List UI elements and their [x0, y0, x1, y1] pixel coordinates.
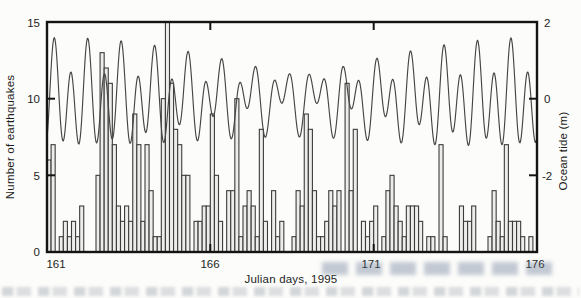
- earthquake-bar: [390, 175, 394, 252]
- earthquake-bar: [76, 237, 80, 252]
- earthquake-bar: [366, 237, 370, 252]
- earthquake-bar: [464, 221, 468, 252]
- earthquake-bar: [427, 237, 431, 252]
- earthquake-bar: [202, 206, 206, 252]
- earthquake-bar: [72, 221, 76, 252]
- earthquake-bar: [394, 206, 398, 252]
- earthquake-bar: [398, 221, 402, 252]
- earthquake-bar: [317, 237, 321, 252]
- earthquake-bar: [492, 191, 496, 252]
- earthquake-bar: [300, 206, 304, 252]
- x-axis-title: Julian days, 1995: [245, 273, 338, 285]
- earthquake-bar: [296, 191, 300, 252]
- earthquake-bar: [272, 191, 276, 252]
- earthquake-bar: [210, 114, 214, 252]
- earthquake-bar: [345, 83, 349, 252]
- earthquake-bar: [165, 22, 169, 252]
- earthquake-bar: [198, 221, 202, 252]
- earthquake-bar: [59, 237, 63, 252]
- earthquake-bars-layer: [47, 22, 533, 252]
- earthquake-bar: [80, 206, 84, 252]
- earthquake-bar: [174, 129, 178, 252]
- ocean-tide-line: [47, 38, 537, 146]
- earthquake-bar: [439, 145, 443, 252]
- earthquake-bar: [182, 175, 186, 252]
- earthquake-bar: [468, 221, 472, 252]
- earthquake-bar: [308, 129, 312, 252]
- earthquake-bar: [353, 129, 357, 252]
- right-tick-label-0: 0: [544, 93, 550, 105]
- x-tick-label-166: 166: [200, 258, 219, 270]
- earthquake-bar: [63, 221, 67, 252]
- earthquake-bar: [304, 114, 308, 252]
- earthquake-bar: [349, 191, 353, 252]
- right-tick-label-neg2: -2: [542, 170, 552, 182]
- earthquake-bar: [361, 221, 365, 252]
- earthquake-bar: [500, 237, 504, 252]
- right-tick-label-2: 2: [544, 17, 550, 29]
- earthquake-bar: [263, 221, 267, 252]
- earthquake-bar: [325, 221, 329, 252]
- earthquake-bar: [133, 114, 137, 252]
- earthquake-bar: [141, 221, 145, 252]
- earthquake-bar: [170, 83, 174, 252]
- earthquake-bar: [214, 175, 218, 252]
- earthquake-bar: [255, 237, 259, 252]
- earthquake-bar: [329, 191, 333, 252]
- earthquake-bar: [194, 221, 198, 252]
- earthquake-bar: [337, 191, 341, 252]
- earthquake-bar: [513, 221, 517, 252]
- earthquake-bar: [51, 145, 55, 252]
- x-tick-label-161: 161: [46, 258, 65, 270]
- earthquake-bar: [251, 206, 255, 252]
- earthquake-bar: [67, 237, 71, 252]
- earthquake-bar: [521, 237, 525, 252]
- earthquake-bar: [459, 206, 463, 252]
- earthquake-bar: [96, 175, 100, 252]
- earthquake-bar: [415, 206, 419, 252]
- earthquake-bar: [517, 221, 521, 252]
- earthquake-bar: [121, 221, 125, 252]
- earthquake-bar: [116, 206, 120, 252]
- earthquake-bar: [157, 237, 161, 252]
- left-axis-title: Number of earthquakes: [4, 75, 16, 199]
- earthquake-bar: [227, 191, 231, 252]
- earthquake-bar: [247, 191, 251, 252]
- earthquake-bar: [386, 191, 390, 252]
- earthquake-tide-chart: 15 10 5 0 2 0 -2 161 166 171 176 Julian …: [0, 0, 581, 298]
- left-tick-label-15: 15: [27, 17, 40, 29]
- earthquake-bar: [504, 145, 508, 252]
- earthquake-bar: [410, 206, 414, 252]
- earthquake-bar: [231, 191, 235, 252]
- earthquake-bar: [243, 206, 247, 252]
- earthquake-bar: [312, 191, 316, 252]
- earthquake-bar: [235, 99, 239, 252]
- earthquake-bar: [125, 206, 129, 252]
- left-tick-label-0: 0: [34, 246, 40, 258]
- earthquake-bar: [321, 237, 325, 252]
- earthquake-bar: [333, 206, 337, 252]
- earthquake-bar: [186, 175, 190, 252]
- left-tick-label-5: 5: [34, 170, 40, 182]
- earthquake-bar: [419, 221, 423, 252]
- earthquake-bar: [145, 145, 149, 252]
- earthquake-bar: [239, 237, 243, 252]
- earthquake-bar: [153, 237, 157, 252]
- earthquake-bar: [488, 237, 492, 252]
- earthquake-bar: [137, 145, 141, 252]
- x-tick-label-176: 176: [525, 258, 544, 270]
- earthquake-bar: [529, 237, 533, 252]
- earthquake-bar: [472, 206, 476, 252]
- earthquake-bar: [149, 191, 153, 252]
- earthquake-bar: [382, 237, 386, 252]
- scanned-figure-page: 15 10 5 0 2 0 -2 161 166 171 176 Julian …: [0, 0, 581, 298]
- earthquake-bar: [161, 99, 165, 252]
- earthquake-bar: [443, 237, 447, 252]
- right-axis-title: Ocean tide (m): [557, 112, 569, 191]
- earthquake-bar: [129, 221, 133, 252]
- earthquake-bar: [496, 221, 500, 252]
- earthquake-bar: [219, 221, 223, 252]
- earthquake-bar: [406, 206, 410, 252]
- ocean-tide-layer: [47, 38, 537, 146]
- x-tick-label-171: 171: [361, 258, 380, 270]
